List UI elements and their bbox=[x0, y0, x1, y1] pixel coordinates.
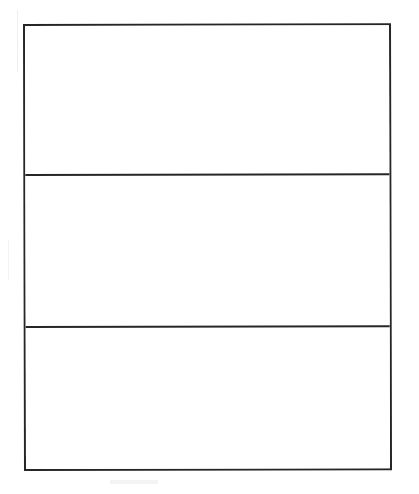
panel-row-3 bbox=[26, 325, 390, 469]
panel-row-1-content bbox=[25, 25, 389, 174]
diagram-frame bbox=[23, 23, 392, 471]
scan-artifact bbox=[8, 240, 9, 280]
panel-row-3-content bbox=[26, 327, 390, 469]
panel-row-2-content bbox=[25, 175, 389, 326]
panel-row-2 bbox=[25, 173, 389, 326]
panel-row-1 bbox=[25, 25, 389, 174]
page-canvas bbox=[0, 0, 419, 494]
scan-artifact bbox=[17, 10, 18, 72]
scan-artifact bbox=[110, 480, 158, 484]
